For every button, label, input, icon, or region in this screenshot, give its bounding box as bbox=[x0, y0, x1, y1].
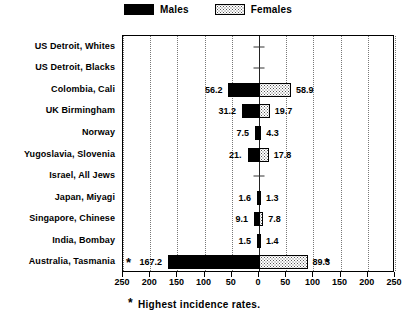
zero-tick-marker bbox=[254, 176, 265, 177]
bar-females bbox=[259, 104, 270, 118]
chart-root: Males Females US Detroit, WhitesUS Detro… bbox=[0, 0, 416, 317]
highest-rate-star-icon: * bbox=[126, 256, 131, 269]
value-label-females: 4.3 bbox=[266, 128, 279, 137]
value-label-males: 9.1 bbox=[236, 215, 249, 224]
category-label-8: Singapore, Chinese bbox=[29, 214, 115, 223]
bar-females bbox=[259, 191, 261, 205]
value-label-males: 7.5 bbox=[236, 128, 249, 137]
axis-tick-label-5: 0 bbox=[255, 278, 260, 287]
legend-item-females: Females bbox=[215, 4, 292, 15]
bar-females bbox=[259, 234, 261, 248]
value-axis: 25020015010050050100150200250 bbox=[122, 272, 394, 294]
category-label-2: Colombia, Cali bbox=[51, 84, 115, 93]
category-label-1: US Detroit, Blacks bbox=[35, 63, 115, 72]
legend-label-males: Males bbox=[160, 4, 189, 15]
category-label-9: India, Bombay bbox=[52, 235, 115, 244]
bar-males bbox=[228, 83, 259, 97]
footnote-text: Highest incidence rates. bbox=[138, 299, 260, 310]
highest-rate-star-icon: * bbox=[324, 256, 329, 269]
value-label-females: 7.8 bbox=[268, 215, 281, 224]
chart-row: 56.258.9 bbox=[123, 83, 393, 97]
axis-tick-label-1: 200 bbox=[142, 278, 157, 287]
value-label-females: 1.4 bbox=[266, 236, 279, 245]
value-label-males: 56.2 bbox=[205, 85, 223, 94]
axis-tick-label-2: 150 bbox=[169, 278, 184, 287]
bar-males bbox=[242, 104, 259, 118]
chart-row bbox=[123, 61, 393, 75]
value-label-males: 167.2 bbox=[140, 258, 163, 267]
axis-tick-label-8: 150 bbox=[332, 278, 347, 287]
value-label-males: 1.6 bbox=[238, 193, 251, 202]
chart-row: 167.289.3** bbox=[123, 255, 393, 269]
chart-row: 21.17.8 bbox=[123, 148, 393, 162]
chart-row bbox=[123, 40, 393, 54]
females-swatch-icon bbox=[215, 4, 245, 15]
males-swatch-icon bbox=[124, 4, 154, 15]
chart-row bbox=[123, 169, 393, 183]
category-label-6: Israel, All Jews bbox=[49, 171, 115, 180]
axis-tick-label-9: 200 bbox=[359, 278, 374, 287]
category-label-3: UK Birmingham bbox=[46, 106, 115, 115]
value-label-males: 31.2 bbox=[219, 107, 237, 116]
chart-row: 7.54.3 bbox=[123, 126, 393, 140]
category-axis-labels: US Detroit, WhitesUS Detroit, BlacksColo… bbox=[0, 35, 119, 272]
chart-row: 1.61.3 bbox=[123, 191, 393, 205]
chart-legend: Males Females bbox=[0, 4, 416, 15]
axis-tick-label-6: 50 bbox=[280, 278, 290, 287]
chart-row: 1.51.4 bbox=[123, 234, 393, 248]
plot-area: 56.258.931.219.77.54.321.17.81.61.39.17.… bbox=[122, 35, 394, 272]
gridline bbox=[395, 36, 396, 271]
category-label-7: Japan, Miyagi bbox=[55, 192, 115, 201]
chart-row: 9.17.8 bbox=[123, 212, 393, 226]
footnote-star-icon: * bbox=[128, 296, 133, 310]
value-label-females: 17.8 bbox=[274, 150, 292, 159]
axis-tick-label-3: 100 bbox=[196, 278, 211, 287]
chart-row: 31.219.7 bbox=[123, 104, 393, 118]
bar-females bbox=[259, 83, 291, 97]
bar-females bbox=[259, 255, 308, 269]
category-label-5: Yugoslavia, Slovenia bbox=[24, 149, 115, 158]
bar-females bbox=[259, 126, 261, 140]
axis-tick-label-10: 250 bbox=[386, 278, 401, 287]
zero-tick-marker bbox=[254, 46, 265, 47]
axis-tick-label-7: 100 bbox=[305, 278, 320, 287]
bar-males bbox=[248, 148, 259, 162]
zero-tick-marker bbox=[254, 68, 265, 69]
value-label-males: 21. bbox=[229, 150, 242, 159]
category-label-10: Australia, Tasmania bbox=[29, 257, 115, 266]
category-label-0: US Detroit, Whites bbox=[35, 41, 115, 50]
axis-tick-label-0: 250 bbox=[114, 278, 129, 287]
value-label-males: 1.5 bbox=[238, 236, 251, 245]
footnote: *Highest incidence rates. bbox=[128, 296, 260, 310]
category-label-4: Norway bbox=[82, 127, 115, 136]
bar-males bbox=[168, 255, 259, 269]
bar-females bbox=[259, 148, 269, 162]
value-label-females: 1.3 bbox=[266, 193, 279, 202]
axis-tick-label-4: 50 bbox=[226, 278, 236, 287]
value-label-females: 19.7 bbox=[275, 107, 293, 116]
legend-item-males: Males bbox=[124, 4, 189, 15]
bar-females bbox=[259, 212, 263, 226]
legend-label-females: Females bbox=[251, 4, 292, 15]
value-label-females: 58.9 bbox=[296, 85, 314, 94]
